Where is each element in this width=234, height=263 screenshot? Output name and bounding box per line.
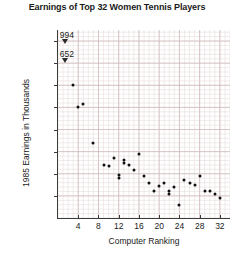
x-axis-title: Computer Ranking: [58, 236, 230, 246]
y-tick-mark: [54, 85, 58, 86]
data-point: [127, 163, 130, 166]
x-tick-mark: [98, 215, 99, 219]
data-point: [158, 185, 161, 188]
y-tick-mark: [54, 130, 58, 131]
x-tick-label: 32: [215, 221, 224, 231]
data-point: [208, 190, 211, 193]
y-tick-mark: [54, 152, 58, 153]
chart-title: Earnings of Top 32 Women Tennis Players: [0, 2, 234, 12]
offscale-arrow-icon: [62, 39, 68, 44]
data-point: [92, 141, 95, 144]
data-point: [132, 169, 135, 172]
x-tick-mark: [179, 215, 180, 219]
y-tick-mark: [54, 196, 58, 197]
data-point: [72, 84, 75, 87]
x-tick-label: 8: [96, 221, 101, 231]
y-tick-mark: [54, 107, 58, 108]
x-tick-label: 12: [114, 221, 123, 231]
data-point: [148, 182, 151, 185]
data-point: [163, 181, 166, 184]
data-point: [107, 164, 110, 167]
data-point: [82, 102, 85, 105]
data-point: [117, 177, 120, 180]
x-tick-mark: [220, 215, 221, 219]
data-point: [183, 179, 186, 182]
x-tick-label: 28: [195, 221, 204, 231]
scatter-chart: Earnings of Top 32 Women Tennis Players …: [0, 0, 234, 263]
x-tick-label: 4: [76, 221, 81, 231]
data-point: [188, 181, 191, 184]
data-point: [153, 190, 156, 193]
data-point: [213, 192, 216, 195]
data-point: [77, 106, 80, 109]
x-tick-mark: [119, 215, 120, 219]
y-tick-mark: [54, 41, 58, 42]
data-point: [102, 163, 105, 166]
x-tick-label: 16: [134, 221, 143, 231]
plot-area: [58, 30, 230, 218]
x-tick-label: 20: [154, 221, 163, 231]
y-tick-mark: [54, 63, 58, 64]
data-point: [193, 183, 196, 186]
data-point: [198, 174, 201, 177]
x-tick-mark: [200, 215, 201, 219]
x-tick-mark: [159, 215, 160, 219]
data-point: [168, 192, 171, 195]
data-point: [117, 173, 120, 176]
offscale-arrow-icon: [62, 58, 68, 63]
x-tick-mark: [78, 215, 79, 219]
data-point: [122, 161, 125, 164]
x-tick-label: 24: [175, 221, 184, 231]
data-point: [203, 189, 206, 192]
y-axis-title: 1985 Earnings in Thousands: [21, 48, 31, 218]
y-tick-mark: [54, 174, 58, 175]
data-point: [218, 197, 221, 200]
data-point: [112, 157, 115, 160]
data-point: [173, 186, 176, 189]
data-point: [143, 174, 146, 177]
data-point: [178, 203, 181, 206]
x-tick-mark: [139, 215, 140, 219]
data-point: [137, 152, 140, 155]
x-axis-line: [57, 218, 230, 219]
